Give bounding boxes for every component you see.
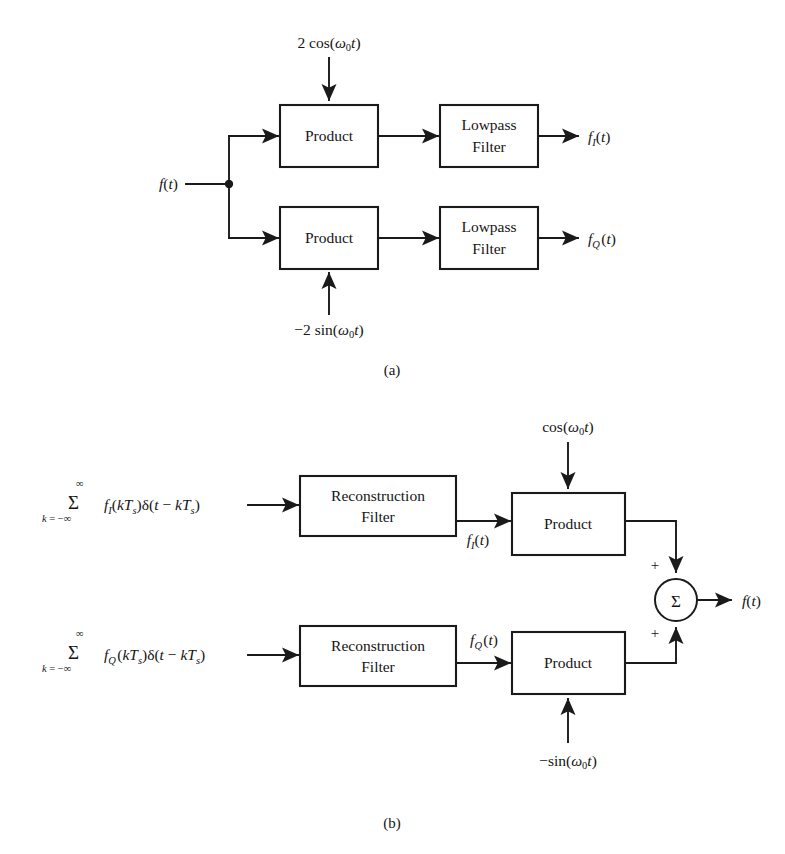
carrier-bottom-label-b: −sin(ω0t) [539,752,597,771]
product-bottom-label-b: Product [544,654,593,671]
input-label-a: f(t) [159,175,178,193]
lowpass-bottom-label-line2-a: Filter [472,240,506,257]
intermediate-bottom-label-b: fQ (t) [470,631,498,651]
input-top-sigma-b: Σ [68,492,79,513]
block-diagram-svg: 2 cos(ω0t) Product Lowpass Filter Produc… [0,0,785,854]
lowpass-top-box-a [440,105,538,167]
reconstruction-bottom-box-b [300,626,456,686]
summer-plus-top-b: + [651,557,659,573]
lowpass-bottom-label-line1-a: Lowpass [461,218,516,235]
caption-a: (a) [384,362,401,379]
reconstruction-bottom-label-line1-b: Reconstruction [331,637,425,654]
reconstruction-top-box-b [300,476,456,536]
product-top-label-b: Product [544,515,593,532]
part-a-group: 2 cos(ω0t) Product Lowpass Filter Produc… [159,34,616,379]
input-bottom-body-b: fQ (kTs)δ(t − kTs) [104,646,205,666]
carrier-top-label-a: 2 cos(ω0t) [297,34,360,53]
product-top-label-a: Product [305,127,354,144]
part-b-group: ∞ Σ k = −∞ fI(kTs)δ(t − kTs) Reconstruct… [42,418,761,832]
figure-canvas: 2 cos(ω0t) Product Lowpass Filter Produc… [0,0,785,854]
input-top-upper-limit-b: ∞ [76,478,84,489]
lowpass-top-label-line2-a: Filter [472,138,506,155]
input-bottom-lower-limit-b: k = −∞ [42,663,71,674]
carrier-top-label-b: cos(ω0t) [542,418,594,437]
sigma-glyph-b: Σ [671,592,681,611]
lowpass-top-label-line1-a: Lowpass [461,116,516,133]
input-bottom-upper-limit-b: ∞ [76,628,84,639]
reconstruction-bottom-label-line2-b: Filter [361,658,395,675]
product-bottom-label-a: Product [305,229,354,246]
intermediate-top-label-b: fI(t) [467,531,489,551]
lowpass-bottom-box-a [440,207,538,269]
reconstruction-top-label-line2-b: Filter [361,508,395,525]
reconstruction-top-label-line1-b: Reconstruction [331,487,425,504]
caption-b: (b) [383,815,401,832]
summer-plus-bottom-b: + [651,625,659,641]
output-bottom-label-a: fQ (t) [588,230,616,250]
input-top-lower-limit-b: k = −∞ [42,513,71,524]
input-bottom-expression-b: ∞ Σ k = −∞ fQ (kTs)δ(t − kTs) [42,628,205,674]
output-top-label-a: fI(t) [588,128,610,148]
input-bottom-sigma-b: Σ [68,642,79,663]
carrier-bottom-label-a: −2 sin(ω0t) [294,321,363,340]
input-top-body-b: fI(kTs)δ(t − kTs) [104,496,200,516]
output-label-b: f(t) [742,592,761,610]
input-top-expression-b: ∞ Σ k = −∞ fI(kTs)δ(t − kTs) [42,478,200,524]
